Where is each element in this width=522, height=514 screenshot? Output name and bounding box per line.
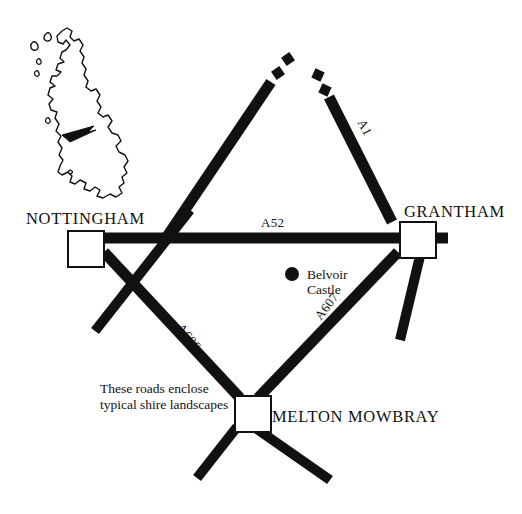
city-label-nottingham: NOTTINGHAM bbox=[26, 210, 145, 227]
uk-mainland-path bbox=[48, 28, 128, 198]
annotation-shire-caption: These roads enclose typical shire landsc… bbox=[100, 381, 228, 413]
road-dash-a1-1 bbox=[318, 83, 331, 96]
road-a1 bbox=[329, 97, 392, 222]
uk-isle-1-path bbox=[37, 59, 42, 65]
marker-nottingham[interactable] bbox=[68, 231, 104, 267]
uk-isle-3-path bbox=[46, 118, 51, 124]
poi-label-belvoir-castle: Belvoir Castle bbox=[307, 267, 348, 297]
poi-label-line-2: Castle bbox=[307, 282, 348, 297]
map-canvas bbox=[0, 0, 522, 514]
annotation-line-2: typical shire landscapes bbox=[100, 397, 228, 413]
uk-ireland-path bbox=[31, 42, 38, 51]
road-melton-south-west-arm bbox=[197, 427, 237, 478]
road-nottingham-crossing bbox=[95, 210, 190, 331]
uk-isle-2-path bbox=[35, 71, 40, 77]
marker-belvoir-castle-dot[interactable] bbox=[285, 267, 299, 281]
road-grantham-south-spur bbox=[400, 256, 420, 340]
road-dash-nw-1 bbox=[271, 66, 285, 80]
road-dash-a1-2 bbox=[311, 68, 324, 81]
road-a606 bbox=[104, 252, 240, 398]
city-label-melton-mowbray: MELTON MOWBRAY bbox=[272, 408, 439, 425]
uk-outline-inset bbox=[31, 28, 128, 198]
marker-melton-mowbray[interactable] bbox=[235, 396, 271, 432]
city-label-grantham: GRANTHAM bbox=[404, 203, 505, 220]
road-dash-nw-2 bbox=[281, 52, 295, 66]
uk-isle-4-path bbox=[69, 170, 73, 174]
road-melton-south-east-arm bbox=[254, 427, 330, 480]
marker-grantham[interactable] bbox=[400, 222, 436, 258]
poi-label-line-1: Belvoir bbox=[307, 267, 348, 282]
road-label-a52: A52 bbox=[261, 216, 284, 230]
uk-outline-path bbox=[44, 33, 51, 41]
road-map-figure: NOTTINGHAM GRANTHAM MELTON MOWBRAY A52 A… bbox=[0, 0, 522, 514]
annotation-line-1: These roads enclose bbox=[100, 381, 228, 397]
